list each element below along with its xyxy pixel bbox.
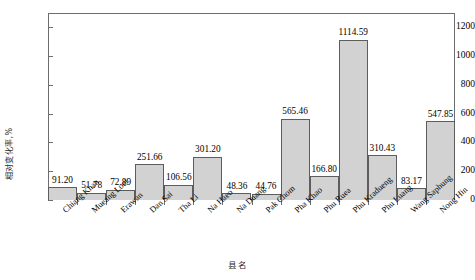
bar-value-label: 1114.59 (338, 28, 368, 37)
bar-value-label: 547.85 (428, 110, 454, 119)
y-axis-title: 相对变化率,% (0, 58, 13, 154)
bar-slot: 44.76 (252, 13, 281, 200)
bar-value-label: 166.80 (311, 165, 337, 174)
y-axis-title-text: 相对变化率,% (6, 128, 14, 181)
bar-value-label: 251.66 (137, 153, 163, 162)
bar-slot: 547.85 (426, 13, 455, 200)
bar-chart-figure: 相对变化率,% 020040060080010001200 91.2051.78… (0, 0, 475, 280)
bar-slot: 48.36 (222, 13, 251, 200)
bar-value-label: 310.43 (370, 144, 396, 153)
bar-slot: 51.78 (77, 13, 106, 200)
bar-value-label: 91.20 (52, 176, 73, 185)
bar-slot: 310.43 (368, 13, 397, 200)
bar (193, 157, 222, 200)
bar-slot: 1114.59 (339, 13, 368, 200)
bar-slot: 565.46 (281, 13, 310, 200)
bar-slot: 251.66 (135, 13, 164, 200)
bar-slot: 301.20 (193, 13, 222, 200)
bar-slot: 166.80 (310, 13, 339, 200)
bar-slot: 72.89 (106, 13, 135, 200)
bar-value-label: 565.46 (282, 107, 308, 116)
bar-slot: 83.17 (397, 13, 426, 200)
bar-slot: 106.56 (164, 13, 193, 200)
bar-value-label: 301.20 (195, 145, 221, 154)
bar-value-label: 106.56 (166, 173, 192, 182)
bar-series: 91.2051.7872.89251.66106.56301.2048.3644… (48, 13, 455, 200)
bar-slot: 91.20 (48, 13, 77, 200)
bar (339, 40, 368, 200)
x-axis-title: 县名 (0, 258, 475, 270)
y-tick-mark (48, 200, 53, 201)
